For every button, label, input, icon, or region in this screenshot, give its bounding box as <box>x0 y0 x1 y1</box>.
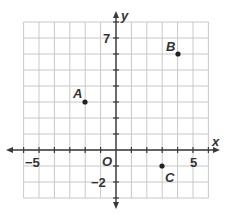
y-tick-label-7: 7 <box>103 31 110 46</box>
point-b: B <box>166 39 181 57</box>
origin-label: O <box>102 154 112 169</box>
point-c-label: C <box>165 170 175 185</box>
x-axis <box>6 147 220 153</box>
x-axis-label: x <box>211 134 220 149</box>
y-axis <box>113 11 119 209</box>
y-axis-up-arrow-icon <box>113 11 119 18</box>
y-axis-down-arrow-icon <box>113 202 119 209</box>
x-axis-left-arrow-icon <box>6 147 13 153</box>
coordinate-plane: x y O −5 5 7 −2 A B C <box>0 0 227 215</box>
point-b-label: B <box>166 39 175 54</box>
y-tick-label-neg2: −2 <box>91 175 106 190</box>
y-axis-label: y <box>120 8 129 23</box>
x-tick-label-neg5: −5 <box>25 155 40 170</box>
point-a-label: A <box>72 86 82 101</box>
x-tick-label-5: 5 <box>190 155 197 170</box>
